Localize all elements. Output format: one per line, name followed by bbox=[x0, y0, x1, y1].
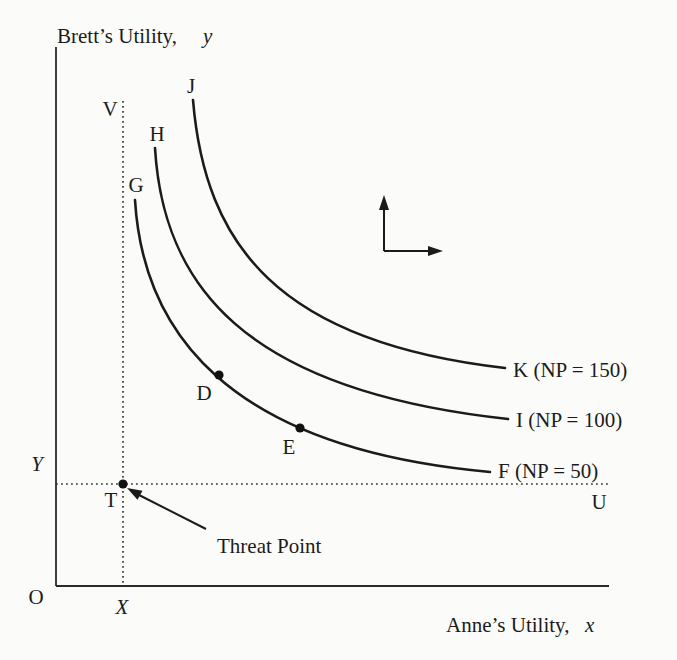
bargaining-diagram: Brett’s Utility, y Anne’s Utility, x G H… bbox=[0, 0, 677, 660]
curve-start-label-g: G bbox=[128, 173, 143, 197]
guide-right-label-u: U bbox=[591, 490, 606, 514]
y-axis-title-variable: y bbox=[201, 24, 213, 48]
x-axis-title-variable: x bbox=[584, 613, 595, 637]
figure-page: Brett’s Utility, y Anne’s Utility, x G H… bbox=[0, 0, 677, 660]
x-axis-title: Anne’s Utility, bbox=[446, 613, 569, 637]
guide-top-label-v: V bbox=[102, 97, 117, 121]
y-axis-title: Brett’s Utility, bbox=[57, 24, 177, 48]
curve-end-label-f: F (NP = 50) bbox=[498, 459, 598, 483]
point-d-label: D bbox=[196, 381, 211, 405]
point-e-marker bbox=[295, 423, 304, 432]
curve-start-label-h: H bbox=[149, 122, 164, 146]
point-d-marker bbox=[214, 370, 223, 379]
threat-point-marker bbox=[118, 479, 127, 488]
point-e-label: E bbox=[283, 435, 296, 459]
origin-label: O bbox=[28, 585, 43, 609]
threat-point-callout: Threat Point bbox=[217, 534, 322, 558]
curve-end-label-k: K (NP = 150) bbox=[513, 358, 627, 382]
threat-point-label: T bbox=[105, 488, 118, 512]
curve-start-label-j: J bbox=[187, 74, 195, 98]
x-intercept-label: X bbox=[115, 595, 130, 619]
curve-end-label-i: I (NP = 100) bbox=[516, 408, 622, 432]
